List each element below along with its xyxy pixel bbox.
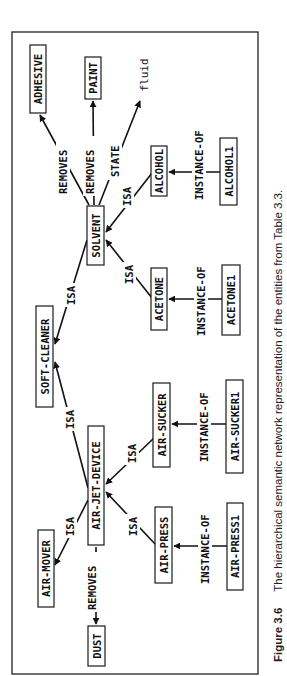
svg-text:AIR-JET-DEVICE: AIR-JET-DEVICE — [90, 441, 102, 530]
node-solvent: SOLVENT — [87, 206, 104, 265]
node-alcohol1: ALCOHOL1 — [220, 138, 237, 205]
node-air-sucker: AIR-SUCKER — [153, 383, 170, 467]
svg-text:SOLVENT: SOLVENT — [90, 213, 102, 257]
svg-text:fluid: fluid — [138, 58, 151, 91]
node-paint: PAINT — [85, 57, 101, 99]
svg-text:Figure 3.6 The hierarchi: Figure 3.6 The hierarchical semantic net… — [268, 190, 285, 662]
node-dust: DUST — [88, 626, 105, 666]
figure-label: Figure 3.6 — [272, 608, 284, 662]
svg-text:AIR-SUCKER1: AIR-SUCKER1 — [229, 392, 241, 462]
label-isa-acetone: ISA — [123, 264, 135, 284]
label-instance-of-acetone: INSTANCE-OF — [195, 266, 207, 336]
node-air-jet-device: AIR-JET-DEVICE — [88, 426, 104, 545]
svg-text:ACETONE1: ACETONE1 — [225, 275, 237, 326]
node-air-mover: AIR-MOVER — [38, 530, 54, 607]
label-isa-airjet-airmover: ISA — [64, 516, 76, 536]
label-instance-of-airsucker: INSTANCE-OF — [198, 392, 210, 462]
svg-text:AIR-SUCKER: AIR-SUCKER — [156, 393, 168, 457]
node-alcohol: ALCOHOL — [151, 146, 167, 196]
label-isa-airpress: ISA — [127, 516, 139, 536]
label-isa-solvent-softcleaner: ISA — [65, 285, 77, 305]
label-isa-alcohol: ISA — [121, 186, 133, 206]
semantic-network-figure: REMOVES REMOVES STATE ISA ISA INSTANCE-O… — [0, 0, 287, 676]
svg-text:AIR-MOVER: AIR-MOVER — [40, 539, 52, 597]
node-acetone: ACETONE — [151, 268, 167, 330]
label-removes-paint: REMOVES — [84, 150, 96, 194]
svg-text:AIR-PRESS1: AIR-PRESS1 — [229, 515, 241, 578]
figure-caption-text: The hierarchical semantic network repres… — [272, 190, 284, 592]
svg-text:AIR-PRESS: AIR-PRESS — [158, 517, 170, 574]
svg-text:ALCOHOL: ALCOHOL — [153, 149, 165, 193]
svg-text:ALCOHOL1: ALCOHOL1 — [223, 146, 235, 197]
svg-text:ACETONE: ACETONE — [153, 277, 165, 321]
node-acetone1: ACETONE1 — [222, 265, 240, 335]
svg-text:SOFT-CLEANER: SOFT-CLEANER — [39, 318, 51, 395]
label-instance-of-airpress: INSTANCE-OF — [199, 514, 211, 584]
node-adhesive: ADHESIVE — [30, 45, 46, 113]
svg-text:DUST: DUST — [91, 633, 103, 658]
label-removes-adhesive: REMOVES — [57, 150, 69, 194]
label-removes-dust: REMOVES — [86, 566, 98, 610]
svg-text:PAINT: PAINT — [87, 62, 99, 94]
node-fluid: fluid — [138, 58, 151, 91]
node-air-press1: AIR-PRESS1 — [227, 503, 243, 590]
label-isa-airjet-softcleaner: ISA — [64, 409, 76, 429]
label-isa-airsucker: ISA — [126, 443, 138, 463]
label-instance-of-alcohol: INSTANCE-OF — [193, 130, 205, 200]
figure-caption: Figure 3.6 The hierarchical semantic net… — [268, 190, 285, 662]
svg-text:ADHESIVE: ADHESIVE — [32, 54, 44, 105]
node-air-sucker1: AIR-SUCKER1 — [226, 380, 243, 473]
node-air-press: AIR-PRESS — [155, 507, 172, 583]
node-soft-cleaner: SOFT-CLEANER — [36, 306, 53, 407]
label-state: STATE — [109, 145, 121, 177]
edge-labels: REMOVES REMOVES STATE ISA ISA INSTANCE-O… — [56, 126, 212, 612]
